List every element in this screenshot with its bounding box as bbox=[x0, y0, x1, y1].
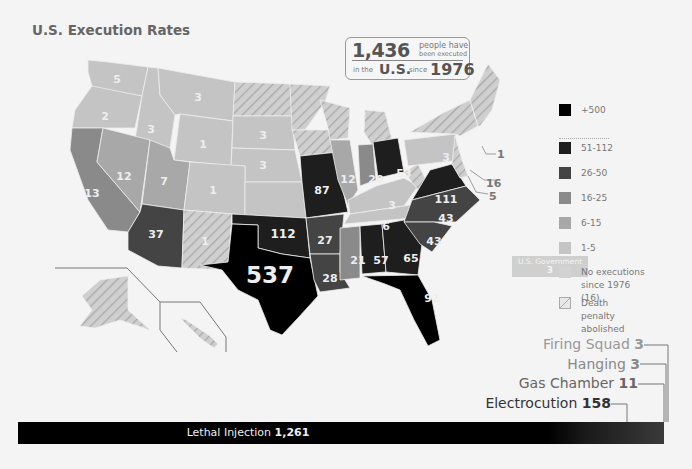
summary-country: U.S. bbox=[379, 61, 411, 77]
method-firing-squad: Firing Squad 3 bbox=[543, 336, 644, 352]
label-sd: 3 bbox=[259, 129, 267, 142]
label-md: 5 bbox=[489, 190, 497, 203]
label-pa: 3 bbox=[442, 151, 450, 164]
label-az: 37 bbox=[148, 228, 163, 241]
state-ny bbox=[410, 100, 478, 136]
label-il: 12 bbox=[340, 173, 355, 186]
legend-label: 1-5 bbox=[581, 242, 596, 255]
label-ct: 1 bbox=[497, 148, 505, 161]
label-al: 57 bbox=[373, 254, 388, 267]
legend-item-16-25: 16-25 bbox=[559, 192, 607, 205]
label-in: 20 bbox=[368, 173, 384, 186]
summary-line1: people have bbox=[419, 42, 468, 50]
label-oh: 53 bbox=[396, 167, 411, 180]
legend-item-51-112: 51-112 bbox=[559, 142, 613, 155]
label-mt: 3 bbox=[194, 91, 202, 104]
label-tx: 537 bbox=[246, 262, 294, 288]
state-hi bbox=[180, 318, 218, 348]
method-name: Electrocution bbox=[485, 395, 577, 411]
summary-year: 1976 bbox=[430, 60, 475, 79]
label-va: 111 bbox=[435, 193, 458, 206]
legend-swatch bbox=[559, 104, 571, 116]
legend-swatch bbox=[559, 242, 571, 254]
method-name: Gas Chamber bbox=[519, 375, 614, 391]
state-fl bbox=[362, 275, 440, 346]
legend-swatch bbox=[559, 217, 571, 229]
label-wy: 1 bbox=[199, 138, 207, 151]
label-mo: 87 bbox=[314, 184, 329, 197]
lethal-injection-name: Lethal Injection bbox=[187, 426, 271, 439]
label-ga: 65 bbox=[403, 252, 418, 265]
legend-item-abolished: Death penalty abolished bbox=[559, 297, 641, 336]
state-nd bbox=[233, 82, 292, 116]
lethal-injection-label: Lethal Injection 1,261 bbox=[18, 422, 478, 444]
label-or: 2 bbox=[101, 110, 109, 123]
method-name: Firing Squad bbox=[543, 336, 630, 352]
legend-swatch bbox=[559, 167, 571, 179]
state-ak bbox=[80, 276, 150, 330]
method-gas-chamber: Gas Chamber 11 bbox=[519, 375, 638, 391]
label-id: 3 bbox=[147, 123, 155, 136]
summary-line2: been executed bbox=[419, 50, 467, 58]
label-ok: 112 bbox=[270, 227, 295, 241]
label-tn: 6 bbox=[382, 220, 390, 233]
method-value: 158 bbox=[582, 395, 611, 411]
label-nm: 1 bbox=[201, 235, 209, 248]
label-nc: 43 bbox=[438, 212, 453, 225]
label-ne: 3 bbox=[259, 159, 267, 172]
legend-divider bbox=[559, 138, 609, 139]
summary-in-the: in the bbox=[353, 66, 373, 74]
label-ut: 7 bbox=[160, 175, 168, 188]
label-ca: 13 bbox=[84, 187, 99, 200]
legend-label: 26-50 bbox=[581, 167, 607, 180]
legend-item-1-5: 1-5 bbox=[559, 242, 596, 255]
summary-since: since bbox=[409, 66, 427, 74]
state-ks bbox=[245, 182, 306, 218]
legend-label: +500 bbox=[581, 104, 606, 117]
label-nv: 12 bbox=[116, 170, 131, 183]
label-de: 16 bbox=[486, 177, 502, 190]
hatch-swatch-icon bbox=[559, 297, 571, 309]
legend-label: 16-25 bbox=[581, 192, 607, 205]
method-hanging: Hanging 3 bbox=[567, 356, 640, 372]
label-wa: 5 bbox=[113, 73, 121, 86]
method-name: Hanging bbox=[567, 356, 626, 372]
method-value: 11 bbox=[619, 375, 638, 391]
label-ky: 3 bbox=[388, 199, 396, 212]
total-count: 1,436 bbox=[352, 39, 410, 61]
method-value: 3 bbox=[630, 356, 640, 372]
state-pa bbox=[404, 134, 460, 166]
label-la: 28 bbox=[322, 272, 337, 285]
method-electrocution: Electrocution 158 bbox=[485, 395, 611, 411]
inset-divider bbox=[55, 268, 226, 352]
label-ar: 27 bbox=[317, 234, 332, 247]
legend-swatch bbox=[559, 266, 571, 278]
legend-label: 6-15 bbox=[581, 217, 601, 230]
legend-swatch bbox=[559, 192, 571, 204]
label-ms: 21 bbox=[350, 254, 365, 267]
method-value: 3 bbox=[634, 336, 644, 352]
legend-label: 51-112 bbox=[581, 142, 613, 155]
state-ms bbox=[340, 226, 360, 280]
label-fl: 92 bbox=[424, 292, 439, 305]
legend-item-6-15: 6-15 bbox=[559, 217, 601, 230]
legend-item-26-50: 26-50 bbox=[559, 167, 607, 180]
label-co: 1 bbox=[209, 184, 217, 197]
legend-swatch bbox=[559, 142, 571, 154]
lethal-injection-bar: Lethal Injection 1,261 bbox=[18, 422, 664, 444]
total-executions-callout: 1,436 people have been executed in the U… bbox=[345, 37, 470, 80]
label-sc: 43 bbox=[426, 235, 441, 248]
lethal-injection-value: 1,261 bbox=[275, 426, 310, 439]
legend-label: Death penalty abolished bbox=[581, 297, 641, 336]
legend-item-500plus: +500 bbox=[559, 104, 606, 117]
